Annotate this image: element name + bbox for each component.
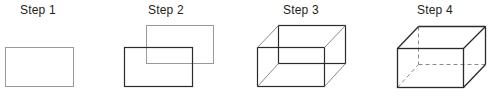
box-drawing-diagram [0, 0, 489, 98]
front-rectangle [125, 48, 193, 87]
back-rectangle [147, 26, 214, 64]
front-rectangle [258, 48, 325, 87]
visible-edges [398, 27, 486, 88]
step-3-figure [258, 26, 346, 87]
back-rectangle [279, 26, 346, 64]
connecting-edges [258, 26, 346, 87]
step-2-figure [125, 26, 214, 87]
front-rectangle [6, 48, 74, 87]
step-1-figure [6, 48, 74, 87]
step-4-figure [398, 27, 486, 88]
